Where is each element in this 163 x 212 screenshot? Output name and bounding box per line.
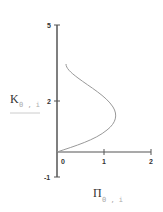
chart-canvas: 5 2 -1 0 1 2 K 0 , i Π 0 , i bbox=[0, 0, 163, 212]
x-axis-label-subscript: 0 , i bbox=[102, 196, 123, 204]
data-curve bbox=[57, 64, 116, 152]
x-tick-label-2: 2 bbox=[149, 158, 153, 165]
y-axis-label: K bbox=[10, 92, 19, 106]
y-tick-label-5: 5 bbox=[47, 22, 51, 29]
y-tick-label-minus1: -1 bbox=[44, 174, 50, 181]
y-tick-label-2: 2 bbox=[47, 98, 51, 105]
x-tick-label-0: 0 bbox=[61, 158, 65, 165]
x-axis-label: Π bbox=[93, 186, 102, 200]
y-axis-label-subscript: 0 , i bbox=[19, 101, 40, 109]
x-tick-label-1: 1 bbox=[102, 158, 106, 165]
